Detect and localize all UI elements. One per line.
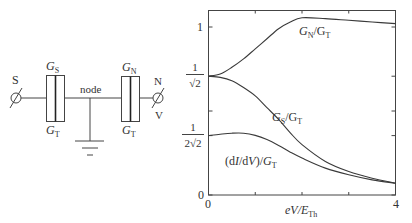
x-axis-label: eV/ETh [285,203,317,219]
xtick-label-0: 0 [205,197,211,211]
terminal-s-label: S [12,73,19,87]
chart: 1 1 √2 1 2√2 0 0 4 eV/ETh GN/GT GS/GT (d… [182,11,399,220]
label-gt-right: GT [122,123,136,139]
label-gn: GN [122,60,137,76]
annotation-gn: GN/GT [299,24,330,40]
label-gs: GS [46,59,59,75]
terminal-n-label: N [154,75,162,87]
terminal-n-icon [152,88,164,108]
ytick-label-inv-2sqrt2: 1 2√2 [182,121,204,149]
ground-icon [75,141,104,155]
node-label: node [80,83,102,95]
xtick-label-4: 4 [393,197,399,211]
svg-text:1: 1 [190,121,196,133]
terminal-s-icon [10,88,22,108]
annotation-gs: GS/GT [272,110,302,126]
right-junction-icon [122,77,140,122]
left-junction-icon [47,76,65,122]
circuit-diagram: S GS GT node GN GT [10,59,164,155]
label-gt-left: GT [46,123,60,139]
y-ticks [209,27,396,195]
ytick-label-inv-sqrt2: 1 √2 [186,61,204,89]
svg-text:1: 1 [192,61,198,73]
svg-text:√2: √2 [189,77,201,89]
ytick-label-0: 0 [198,188,204,202]
svg-text:2√2: 2√2 [184,137,201,149]
figure: S GS GT node GN GT [0,0,412,223]
annotation-didv: (dI/dV)/GT [225,154,277,170]
ytick-label-1: 1 [197,20,203,34]
terminal-v-label: V [155,109,163,121]
